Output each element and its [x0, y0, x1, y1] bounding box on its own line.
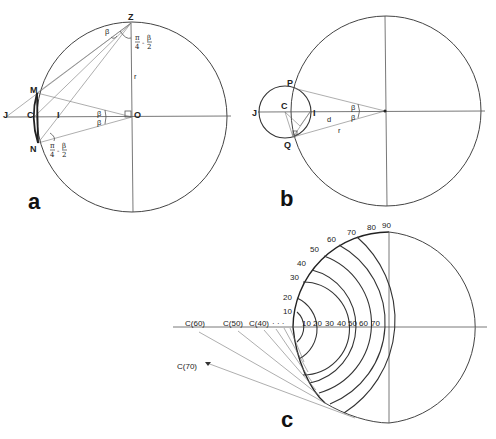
svg-text:-: -: [57, 147, 60, 155]
chord-m-n: [37, 93, 38, 143]
label-p: P: [287, 78, 293, 88]
center-label-c40: C(40): [249, 319, 269, 328]
axis-tick-50: 50: [348, 319, 357, 328]
radius-label-a: r: [134, 72, 137, 81]
line-o-n: [38, 117, 132, 143]
rim-tick-90: 90: [382, 221, 391, 230]
arc-30: [303, 282, 350, 375]
distance-label-b: d: [327, 115, 331, 124]
radius-label-b: r: [338, 126, 341, 135]
line-c60: [199, 332, 325, 403]
horizontal-axis-b: [258, 111, 485, 112]
rim-tick-10: 10: [283, 307, 292, 316]
svg-text:β: β: [147, 34, 151, 42]
rim-tick-70: 70: [347, 228, 356, 237]
svg-text:β: β: [62, 142, 66, 150]
svg-text:π: π: [135, 34, 140, 42]
axis-tick-20: 20: [313, 319, 322, 328]
beta-arc-b: [358, 104, 360, 118]
line-c10: [290, 328, 304, 362]
panel-label-a: a: [28, 189, 41, 214]
beta-arc-o: [105, 110, 106, 124]
geometry-figure: Z M J C I N O β β β r π 4 - β 2 π 4 - β …: [0, 0, 496, 439]
rim-curve-c-lower: [293, 327, 325, 403]
center-label-c50: C(50): [223, 319, 243, 328]
arc-20: [297, 298, 317, 359]
center-label-c60: C(60): [185, 319, 205, 328]
center-label-c70: C(70): [177, 362, 197, 371]
center-dot-b: [384, 110, 387, 113]
axis-tick-70: 70: [371, 319, 380, 328]
line-o-m: [37, 93, 132, 117]
svg-text:4: 4: [50, 151, 55, 159]
rim-tick-80: 80: [367, 223, 376, 232]
label-j: J: [3, 110, 8, 120]
panel-a: Z M J C I N O β β β r π 4 - β 2 π 4 - β …: [3, 12, 231, 214]
label-j-b: J: [252, 108, 257, 118]
line-z-n: [38, 23, 131, 143]
rim-tick-40: 40: [297, 259, 306, 268]
label-m: M: [30, 85, 38, 95]
label-o: O: [134, 110, 141, 120]
angle-label-z: π 4 - β 2: [135, 34, 152, 51]
axis-tick-30: 30: [325, 319, 334, 328]
label-q: Q: [284, 140, 291, 150]
rim-tick-60: 60: [327, 235, 336, 244]
line-c20: [284, 328, 308, 372]
beta-lower-b: β: [351, 113, 356, 122]
line-z-j: [6, 23, 131, 117]
angle-label-n: π 4 - β 2: [50, 142, 67, 159]
label-i-b: I: [313, 108, 316, 118]
axis-tick-10: 10: [302, 319, 311, 328]
svg-text:2: 2: [147, 43, 151, 51]
panel-label-b: b: [280, 186, 293, 211]
panel-c: 10 20 30 40 50 60 70 80 90 10 20 30 40 5…: [173, 221, 487, 432]
label-i: I: [57, 110, 60, 120]
line-center-p: [293, 88, 385, 111]
rim-tick-50: 50: [310, 245, 319, 254]
svg-text:-: -: [142, 39, 145, 47]
rim-tick-20: 20: [283, 293, 292, 302]
axis-tick-60: 60: [359, 319, 368, 328]
main-circle-c-right: [389, 232, 475, 423]
line-c50: [238, 331, 320, 396]
label-z: Z: [128, 12, 134, 22]
label-n: N: [30, 144, 37, 154]
horizontal-axis-a: [6, 116, 231, 117]
beta-lower-a: β: [97, 118, 102, 127]
panel-b: P J C I Q β β d r b: [252, 16, 485, 211]
beta-upper-a: β: [97, 109, 102, 118]
label-c: C: [27, 110, 34, 120]
beta-upper-b: β: [351, 103, 356, 112]
beta-top-a: β: [105, 27, 110, 36]
label-c-b: C: [281, 101, 288, 111]
panel-label-c: c: [281, 407, 293, 432]
center-label-dots: · · ·: [272, 319, 284, 328]
axis-tick-40: 40: [337, 319, 346, 328]
rim-tick-30: 30: [290, 273, 299, 282]
svg-text:π: π: [50, 142, 55, 150]
svg-text:2: 2: [62, 151, 66, 159]
rim-curve-c-bottom: [325, 403, 389, 423]
svg-text:4: 4: [135, 43, 140, 51]
